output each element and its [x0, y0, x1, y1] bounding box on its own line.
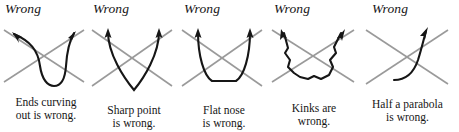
caption-line-2: is wrong. [88, 117, 180, 130]
caption-line-1: Flat nose [178, 104, 270, 117]
wrong-curve [108, 32, 159, 90]
panel-half-parabola: Wrong Half a parabola is wrong. [356, 0, 459, 132]
wrong-curve [14, 33, 74, 86]
panel-caption: Ends curving out is wrong. [0, 96, 92, 121]
caption-line-2: is wrong. [356, 111, 459, 124]
cross-lines [92, 30, 172, 86]
caption-line-1: Sharp point [88, 104, 180, 117]
panel-flat-nose: Wrong Flat nose is wrong. [178, 0, 270, 132]
panel-caption: Sharp point is wrong. [88, 104, 180, 129]
panel-title: Wrong [274, 1, 310, 17]
narrow-u-with-flared-ends-art [0, 20, 92, 98]
panel-sharp-point: Wrong Sharp point is wrong. [88, 0, 180, 132]
panel-caption: Kinks are wrong. [268, 102, 360, 127]
panel-title: Wrong [372, 1, 408, 17]
caption-line-2: out is wrong. [0, 109, 92, 122]
panel-caption: Half a parabola is wrong. [356, 98, 459, 123]
wrong-shapes-figure: Wrong Ends curving out is wrong. Wrong [0, 0, 459, 132]
caption-line-2: wrong. [268, 115, 360, 128]
caption-line-1: Kinks are [268, 102, 360, 115]
caption-line-2: is wrong. [178, 117, 270, 130]
panel-title: Wrong [184, 1, 220, 17]
sharp-v-curve-art [88, 20, 180, 98]
caption-line-1: Half a parabola [356, 98, 459, 111]
flat-bottom-u-curve-art [178, 20, 270, 98]
panel-title: Wrong [5, 1, 41, 17]
half-parabola-curve-art [356, 20, 459, 98]
caption-line-1: Ends curving [0, 96, 92, 109]
arrowhead-up-right [68, 31, 76, 43]
panel-ends-curving-out: Wrong Ends curving out is wrong. [0, 0, 92, 132]
panel-kinks: Wrong Kinks are wrong. [268, 0, 360, 132]
kinked-wavy-u-curve-art [268, 20, 360, 98]
panel-caption: Flat nose is wrong. [178, 104, 270, 129]
panel-title: Wrong [93, 1, 129, 17]
